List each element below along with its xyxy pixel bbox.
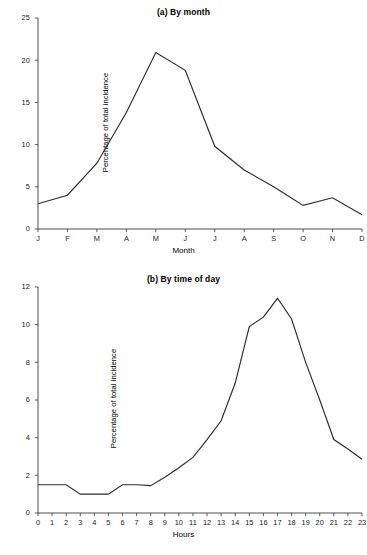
- svg-text:21: 21: [330, 518, 338, 527]
- svg-text:5: 5: [26, 182, 30, 191]
- svg-text:M: M: [153, 234, 159, 243]
- svg-text:13: 13: [217, 518, 225, 527]
- figure-by-month: (a) By month Percentage of total inciden…: [0, 0, 367, 272]
- svg-text:11: 11: [189, 518, 197, 527]
- svg-text:J: J: [36, 234, 40, 243]
- line-chart-a: 0510152025JFMAMJJASOND: [38, 18, 362, 229]
- data-series-line: [38, 53, 362, 215]
- svg-text:23: 23: [358, 518, 366, 527]
- svg-text:7: 7: [135, 518, 139, 527]
- svg-text:22: 22: [344, 518, 352, 527]
- svg-text:17: 17: [273, 518, 281, 527]
- plot-area-b: 0246810120123456789101112131415161718192…: [38, 287, 362, 513]
- svg-text:F: F: [65, 234, 70, 243]
- svg-text:10: 10: [22, 320, 30, 329]
- svg-text:8: 8: [149, 518, 153, 527]
- chart-title-b: (b) By time of day: [0, 274, 367, 284]
- svg-text:N: N: [330, 234, 335, 243]
- svg-text:10: 10: [22, 140, 30, 149]
- plot-area-a: 0510152025JFMAMJJASOND: [38, 18, 362, 229]
- x-axis-label-a: Month: [0, 246, 367, 255]
- svg-text:J: J: [213, 234, 217, 243]
- data-series-line: [38, 298, 362, 494]
- svg-text:12: 12: [22, 282, 30, 291]
- svg-text:J: J: [183, 234, 187, 243]
- svg-text:19: 19: [302, 518, 310, 527]
- svg-text:10: 10: [175, 518, 183, 527]
- svg-text:14: 14: [231, 518, 239, 527]
- svg-text:O: O: [300, 234, 306, 243]
- svg-text:D: D: [359, 234, 364, 243]
- svg-text:25: 25: [22, 13, 30, 22]
- svg-text:16: 16: [259, 518, 267, 527]
- svg-text:S: S: [271, 234, 276, 243]
- svg-text:2: 2: [26, 471, 30, 480]
- x-axis-label-b: Hours: [0, 530, 367, 539]
- svg-text:20: 20: [316, 518, 324, 527]
- line-chart-b: 0246810120123456789101112131415161718192…: [38, 287, 362, 513]
- svg-text:A: A: [124, 234, 129, 243]
- svg-text:5: 5: [106, 518, 110, 527]
- svg-text:3: 3: [78, 518, 82, 527]
- svg-text:6: 6: [26, 395, 30, 404]
- svg-text:0: 0: [36, 518, 40, 527]
- svg-text:12: 12: [203, 518, 211, 527]
- chart-title-a: (a) By month: [0, 7, 367, 17]
- svg-text:18: 18: [287, 518, 295, 527]
- svg-text:15: 15: [22, 98, 30, 107]
- svg-text:M: M: [94, 234, 100, 243]
- svg-text:15: 15: [245, 518, 253, 527]
- svg-text:20: 20: [22, 56, 30, 65]
- svg-text:4: 4: [26, 433, 30, 442]
- svg-text:8: 8: [26, 358, 30, 367]
- svg-text:6: 6: [120, 518, 124, 527]
- svg-text:0: 0: [26, 224, 30, 233]
- svg-text:4: 4: [92, 518, 96, 527]
- svg-text:9: 9: [163, 518, 167, 527]
- svg-text:2: 2: [64, 518, 68, 527]
- svg-text:A: A: [242, 234, 247, 243]
- svg-text:1: 1: [50, 518, 54, 527]
- svg-text:0: 0: [26, 508, 30, 517]
- figure-by-time-of-day: (b) By time of day Percentage of total i…: [0, 268, 367, 555]
